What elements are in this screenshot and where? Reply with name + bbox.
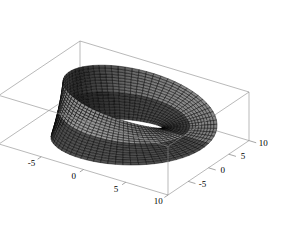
tick-label: 10 xyxy=(154,196,164,206)
plot-canvas: -10-50510-50510-202 xyxy=(0,0,306,242)
tick-label: 0 xyxy=(72,171,77,181)
tick-label: 0 xyxy=(220,165,225,175)
surface-plot-figure: -10-50510-50510-202 xyxy=(0,0,306,242)
tick-label: -5 xyxy=(28,158,36,168)
tick-label: 10 xyxy=(259,138,269,148)
tick-label: 5 xyxy=(241,151,246,161)
tick-label: -5 xyxy=(199,179,207,189)
tick-label: 5 xyxy=(114,184,119,194)
